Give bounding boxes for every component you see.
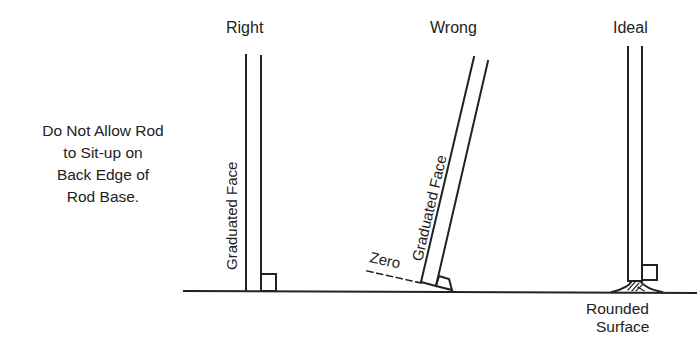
rod-diagram: Graduated Face Graduated Face Zero [0,0,697,342]
rod-base-level-wrong [436,276,452,290]
rod-right [246,55,276,291]
graduated-face-label-right: Graduated Face [223,162,240,270]
rod-ideal [612,47,662,292]
zero-label: Zero [368,248,402,271]
rod-base-level-ideal [642,265,657,280]
rod-base-level-right [261,274,276,291]
zero-dashed-line [367,271,421,283]
